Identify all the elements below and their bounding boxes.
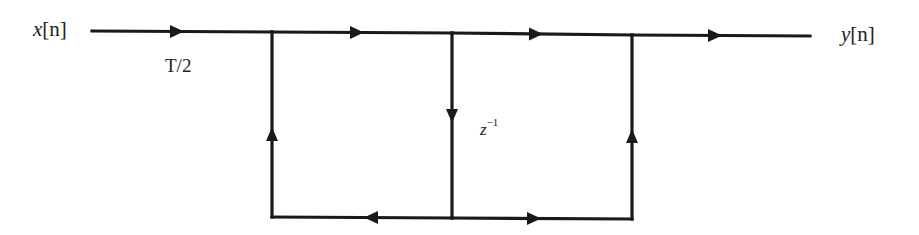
input-index: [n] bbox=[42, 17, 67, 41]
delay-exponent: −1 bbox=[487, 116, 499, 128]
arrow-up-icon bbox=[266, 127, 278, 141]
output-index: [n] bbox=[850, 22, 875, 46]
arrow-down-icon bbox=[446, 109, 458, 123]
output-label: y[n] bbox=[841, 22, 875, 47]
delay-label: z−1 bbox=[480, 118, 498, 140]
arrow-right-icon bbox=[350, 26, 364, 39]
arrow-left-icon bbox=[364, 211, 378, 224]
input-var: x bbox=[33, 17, 42, 41]
edge-b2-to-b1 bbox=[272, 217, 452, 218]
delay-base: z bbox=[480, 120, 487, 139]
signal-flow-diagram bbox=[0, 0, 919, 235]
arrow-right-icon bbox=[527, 212, 541, 225]
arrow-right-icon bbox=[170, 25, 184, 38]
output-var: y bbox=[841, 22, 850, 46]
arrow-right-icon bbox=[529, 28, 543, 41]
arrow-right-icon bbox=[708, 29, 722, 42]
gain-label: T/2 bbox=[165, 55, 191, 77]
input-label: x[n] bbox=[33, 17, 67, 42]
arrow-up-icon bbox=[626, 129, 638, 143]
edge-b2-to-b3 bbox=[452, 218, 632, 219]
